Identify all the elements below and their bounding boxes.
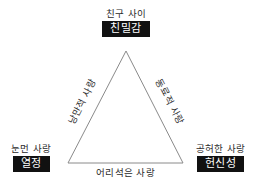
vertex-passion-caption: 눈먼 사랑: [11, 143, 51, 155]
vertex-intimacy-box: 친밀감: [102, 21, 150, 37]
vertex-commitment: 공허한 사랑 헌신성: [188, 143, 253, 172]
vertex-commitment-box: 헌신성: [197, 156, 245, 172]
vertex-intimacy-caption: 친구 사이: [106, 8, 146, 20]
vertex-passion: 눈먼 사랑 열정: [0, 143, 62, 172]
love-triangle-diagram: 친구 사이 친밀감 눈먼 사랑 열정 공허한 사랑 헌신성 낭만적 사랑 동료적…: [0, 0, 253, 195]
edge-label-fatuous-love: 어리석은 사랑: [68, 167, 183, 178]
vertex-intimacy: 친구 사이 친밀감: [86, 8, 166, 37]
vertex-passion-box: 열정: [13, 156, 50, 172]
vertex-commitment-caption: 공허한 사랑: [196, 143, 245, 155]
